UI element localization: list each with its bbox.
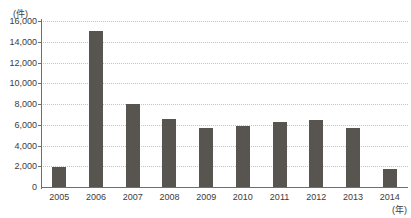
bar <box>273 122 287 187</box>
x-axis-unit-label: (年) <box>392 203 407 216</box>
cropped-header-remnant: ―― ――― ― <box>0 0 411 5</box>
x-axis-tick-label: 2008 <box>159 192 179 202</box>
y-axis-line <box>41 19 42 189</box>
x-axis-tick-label: 2010 <box>233 192 253 202</box>
y-axis-tick-label: 12,000 <box>9 58 37 68</box>
y-axis-tick-label: 6,000 <box>14 120 37 130</box>
y-axis-tick-label: 0 <box>32 182 37 192</box>
bar <box>126 104 140 187</box>
x-axis-tick-label: 2011 <box>270 192 289 202</box>
y-axis-tick-labels: 16,00014,00012,00010,0008,0006,0004,0002… <box>0 21 37 187</box>
x-axis-tick-label: 2005 <box>49 192 69 202</box>
x-axis-tick-label: 2009 <box>196 192 216 202</box>
bar <box>383 169 397 187</box>
bar <box>236 126 250 187</box>
bar <box>199 128 213 187</box>
x-axis-tick-label: 2007 <box>123 192 143 202</box>
y-axis-tick-label: 2,000 <box>14 161 37 171</box>
x-axis-tick-label: 2012 <box>306 192 326 202</box>
x-axis-line <box>41 187 408 188</box>
plot-area <box>41 21 408 187</box>
bar <box>162 119 176 187</box>
bar <box>309 120 323 187</box>
bar <box>346 128 360 187</box>
x-axis-tick-label: 2006 <box>86 192 106 202</box>
y-axis-tick-label: 16,000 <box>9 16 37 26</box>
bar-chart: ―― ――― ― (件) 16,00014,00012,00010,0008,0… <box>0 0 411 218</box>
y-axis-tick-label: 14,000 <box>9 37 37 47</box>
x-axis-tick-label: 2014 <box>380 192 400 202</box>
y-axis-tick-label: 8,000 <box>14 99 37 109</box>
bar <box>52 167 66 187</box>
y-axis-tick-label: 4,000 <box>14 141 37 151</box>
bar <box>89 31 103 187</box>
cropped-header-fragment: ―― ――― ― <box>0 0 63 3</box>
gridline <box>41 21 408 22</box>
y-axis-tick-label: 10,000 <box>9 78 37 88</box>
x-axis-tick-label: 2013 <box>343 192 363 202</box>
